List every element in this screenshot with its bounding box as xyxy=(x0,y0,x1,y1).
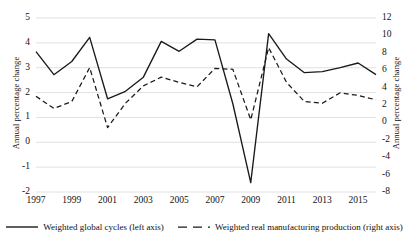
series-line-0 xyxy=(36,34,376,183)
right-tick-label: -8 xyxy=(382,186,402,196)
left-tick-label: -1 xyxy=(12,161,30,171)
x-tick-label: 2009 xyxy=(234,195,268,205)
left-tick-label: 0 xyxy=(12,136,30,146)
right-tick-label: 6 xyxy=(382,64,402,74)
x-tick-label: 2013 xyxy=(305,195,339,205)
right-tick-label: -6 xyxy=(382,169,402,179)
series-lines xyxy=(36,34,376,183)
right-tick-label: -4 xyxy=(382,151,402,161)
left-tick-label: 5 xyxy=(12,12,30,22)
legend-label: Weighted real manufacturing production (… xyxy=(215,222,403,232)
left-tick-label: 1 xyxy=(12,111,30,121)
chart-figure: Annual percentage change Annual percenta… xyxy=(0,0,409,244)
right-tick-label: 2 xyxy=(382,99,402,109)
x-tick-label: 2005 xyxy=(162,195,196,205)
right-tick-label: -2 xyxy=(382,134,402,144)
x-tick-label: 2011 xyxy=(270,195,304,205)
x-tick-label: 1999 xyxy=(55,195,89,205)
left-tick-label: 4 xyxy=(12,37,30,47)
series-line-1 xyxy=(36,48,376,128)
right-tick-label: 8 xyxy=(382,47,402,57)
right-tick-label: 10 xyxy=(382,29,402,39)
solid-line-icon xyxy=(6,223,38,231)
legend-entry-0[interactable]: Weighted global cycles (left axis) xyxy=(6,222,164,232)
x-tick-label: 2007 xyxy=(198,195,232,205)
left-tick-label: 2 xyxy=(12,87,30,97)
x-tick-label: 1997 xyxy=(19,195,53,205)
x-tick-label: 2001 xyxy=(91,195,125,205)
left-tick-label: 3 xyxy=(12,62,30,72)
gridlines xyxy=(36,18,376,192)
right-tick-label: 4 xyxy=(382,82,402,92)
chart-plot-area xyxy=(0,0,409,244)
right-tick-label: 0 xyxy=(382,116,402,126)
x-tick-label: 2003 xyxy=(126,195,160,205)
chart-legend: Weighted global cycles (left axis)Weight… xyxy=(0,218,409,236)
legend-entry-1[interactable]: Weighted real manufacturing production (… xyxy=(178,222,403,232)
dashed-line-icon xyxy=(178,223,210,231)
x-tick-label: 2015 xyxy=(341,195,375,205)
legend-label: Weighted global cycles (left axis) xyxy=(43,222,164,232)
right-tick-label: 12 xyxy=(382,12,402,22)
